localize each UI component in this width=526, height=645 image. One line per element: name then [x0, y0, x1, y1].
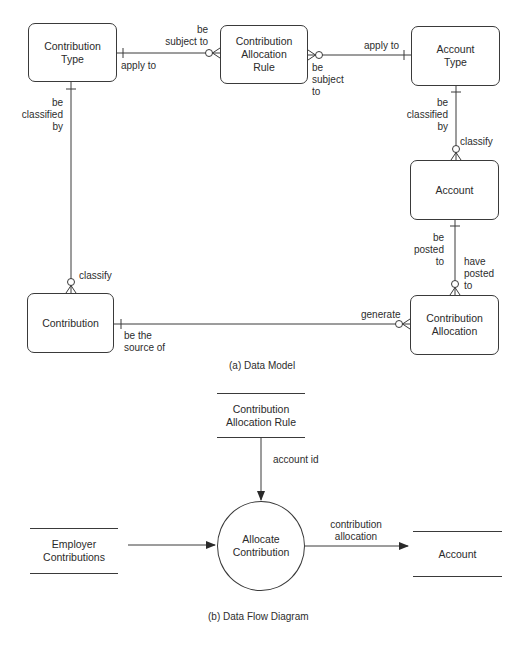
label-at-a-be-classified-by: be classified by [395, 97, 448, 133]
label-c-ca-generate: generate [361, 309, 400, 321]
process-label: Allocate Contribution [233, 533, 290, 559]
store-employer-contributions[interactable]: Employer Contributions [30, 528, 118, 574]
entity-label: Contribution Allocation Rule [236, 35, 293, 74]
label-at-car-be-subject-to: be subject to [312, 62, 344, 98]
caption-data-model: (a) Data Model [229, 360, 295, 371]
relationship-ct-car [117, 48, 220, 58]
entity-account-type[interactable]: Account Type [411, 26, 500, 86]
entity-label: Account [436, 184, 474, 197]
label-c-ca-be-the-source-of: be the source of [124, 330, 165, 354]
label-at-car-apply-to: apply to [364, 40, 399, 52]
entity-label: Contribution [42, 317, 99, 330]
caption-data-flow-diagram: (b) Data Flow Diagram [208, 611, 309, 622]
label-ct-car-apply-to: apply to [121, 60, 156, 72]
entity-label: Contribution Allocation [426, 312, 483, 338]
entity-contribution-allocation-rule[interactable]: Contribution Allocation Rule [220, 25, 308, 84]
label-ct-c-be-classified-by: be classified by [10, 97, 63, 133]
store-label: Contribution Allocation Rule [226, 403, 296, 429]
process-allocate-contribution[interactable]: Allocate Contribution [217, 501, 305, 591]
label-a-ca-be-posted-to: be posted to [400, 232, 444, 268]
entity-account[interactable]: Account [410, 160, 499, 220]
label-a-ca-have-posted-to: have posted to [464, 256, 494, 292]
entity-contribution-allocation[interactable]: Contribution Allocation [410, 295, 499, 355]
label-flow-account-id: account id [273, 454, 319, 466]
entity-label: Contribution Type [44, 40, 101, 66]
store-label: Account [439, 548, 477, 561]
label-at-a-classify: classify [460, 136, 493, 148]
entity-contribution-type[interactable]: Contribution Type [28, 23, 117, 82]
store-account[interactable]: Account [413, 531, 502, 577]
relationship-at-a [451, 86, 461, 160]
label-flow-contribution-allocation: contribution allocation [320, 519, 392, 543]
relationship-a-ca [450, 220, 460, 295]
entity-contribution[interactable]: Contribution [27, 293, 114, 353]
store-contribution-allocation-rule[interactable]: Contribution Allocation Rule [217, 393, 305, 438]
relationship-ct-c [66, 82, 76, 293]
label-ct-car-be-subject-to: be subject to [163, 24, 208, 48]
entity-label: Account Type [437, 43, 475, 69]
label-ct-c-classify: classify [79, 270, 112, 282]
store-label: Employer Contributions [43, 538, 105, 564]
